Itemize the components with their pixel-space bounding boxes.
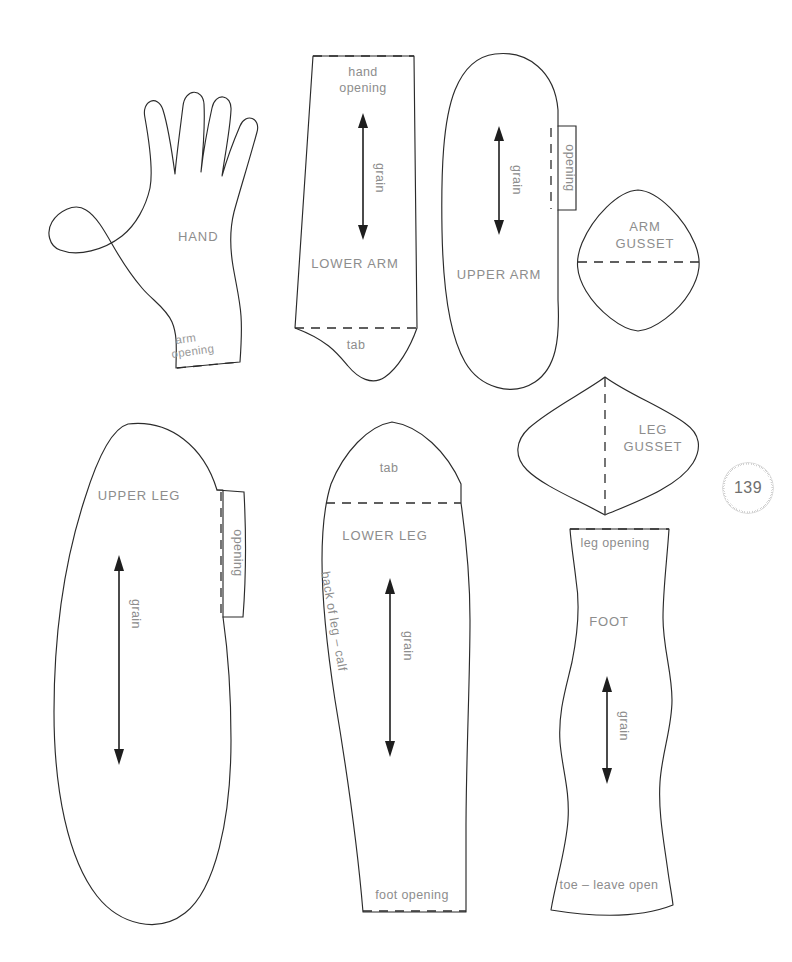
upper-arm-opening-label: opening — [563, 144, 577, 191]
lower-arm-tab-label: tab — [347, 338, 366, 352]
piece-lower-arm: hand opening LOWER ARM tab grain — [295, 56, 417, 381]
hand-outline — [49, 92, 258, 368]
piece-upper-arm: UPPER ARM opening grain — [442, 54, 577, 390]
foot-leg-opening-label: leg opening — [580, 536, 649, 550]
upper-arm-grain-label: grain — [510, 165, 524, 195]
leg-gusset-label-line1: LEG — [639, 422, 668, 437]
lower-arm-hand-opening-label-line2: opening — [339, 81, 386, 95]
hand-label: HAND — [178, 229, 218, 244]
piece-leg-gusset: LEG GUSSET — [518, 377, 699, 515]
leg-gusset-label-line2: GUSSET — [624, 439, 683, 454]
foot-outline — [551, 529, 673, 915]
lower-leg-foot-opening-label: foot opening — [375, 888, 449, 902]
arm-gusset-label-line1: ARM — [629, 219, 661, 234]
foot-label: FOOT — [589, 614, 629, 629]
upper-arm-label: UPPER ARM — [457, 267, 542, 282]
arm-gusset-outline — [577, 190, 699, 331]
pattern-sheet: HAND arm opening hand opening LOWER ARM … — [0, 0, 792, 962]
lower-arm-hand-opening-label-line1: hand — [348, 65, 377, 79]
upper-leg-opening-label: opening — [231, 529, 245, 576]
lower-leg-grain-label: grain — [401, 631, 415, 661]
lower-leg-label: LOWER LEG — [342, 528, 427, 543]
lower-arm-label: LOWER ARM — [311, 256, 399, 271]
foot-grain-label: grain — [617, 711, 631, 741]
upper-leg-grain-label: grain — [129, 599, 143, 629]
page-number-badge: 139 — [722, 462, 774, 514]
piece-lower-leg: tab LOWER LEG back of leg – calf foot op… — [318, 422, 470, 912]
lower-arm-grain-label: grain — [373, 163, 387, 193]
foot-toe-label: toe – leave open — [560, 878, 659, 892]
pattern-canvas: HAND arm opening hand opening LOWER ARM … — [0, 0, 792, 962]
lower-leg-tab-label: tab — [380, 461, 399, 475]
piece-arm-gusset: ARM GUSSET — [577, 190, 699, 331]
piece-hand: HAND arm opening — [49, 92, 258, 368]
lower-arm-outline — [295, 56, 417, 381]
piece-upper-leg: UPPER LEG opening grain — [54, 423, 245, 924]
piece-foot: leg opening FOOT toe – leave open grain — [551, 529, 673, 915]
page-number: 139 — [734, 479, 762, 497]
upper-leg-label: UPPER LEG — [98, 488, 181, 503]
arm-gusset-label-line2: GUSSET — [616, 236, 675, 251]
